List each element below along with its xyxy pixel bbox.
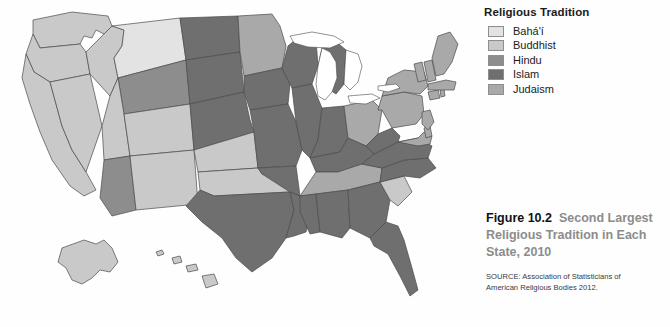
legend-swatch-icon xyxy=(488,84,504,95)
lake-huron xyxy=(344,50,362,90)
legend-item-0: Bahá'í xyxy=(484,24,664,38)
legend-item-4: Judaism xyxy=(484,82,664,96)
state-ia xyxy=(244,68,290,110)
state-me xyxy=(432,32,458,76)
legend-item-label: Buddhist xyxy=(513,40,556,51)
legend-swatch-icon xyxy=(488,55,504,66)
figure-number: Figure 10.2 xyxy=(486,211,559,225)
map-legend: Religious Tradition Bahá'íBuddhistHinduI… xyxy=(484,6,664,97)
legend-item-1: Buddhist xyxy=(484,39,664,53)
source-line-1: SOURCE: Association of Statisticians of xyxy=(486,272,666,283)
figure-caption-block: Figure 10.2Second Largest Religious Trad… xyxy=(486,210,666,293)
state-pa xyxy=(378,92,424,128)
source-line-2: American Religious Bodies 2012. xyxy=(486,283,666,294)
state-ak xyxy=(58,240,118,284)
state-ct xyxy=(428,90,440,100)
states-layer xyxy=(22,12,458,296)
state-nj xyxy=(422,110,434,130)
legend-item-label: Hindu xyxy=(513,55,542,66)
legend-item-3: Islam xyxy=(484,68,664,82)
lake-erie xyxy=(348,94,380,104)
legend-title: Religious Tradition xyxy=(484,6,664,18)
legend-items-list: Bahá'íBuddhistHinduIslamJudaism xyxy=(484,24,664,96)
state-al xyxy=(316,190,350,238)
state-az xyxy=(100,156,136,216)
legend-swatch-icon xyxy=(488,26,504,37)
state-mn xyxy=(238,14,286,76)
legend-swatch-icon xyxy=(488,40,504,51)
figure-caption: Figure 10.2Second Largest Religious Trad… xyxy=(486,210,666,261)
state-tx xyxy=(186,190,294,272)
figure-container: Religious Tradition Bahá'íBuddhistHinduI… xyxy=(0,0,670,327)
state-ma xyxy=(428,80,456,90)
us-choropleth-map xyxy=(0,0,470,327)
legend-item-2: Hindu xyxy=(484,53,664,67)
legend-item-label: Islam xyxy=(513,69,539,80)
state-nm xyxy=(130,150,198,210)
state-hi xyxy=(156,250,218,288)
state-fl xyxy=(370,222,418,296)
legend-item-label: Judaism xyxy=(513,84,554,95)
us-map-svg xyxy=(0,0,470,327)
legend-item-label: Bahá'í xyxy=(513,26,544,37)
figure-source: SOURCE: Association of Statisticians of … xyxy=(486,272,666,293)
legend-swatch-icon xyxy=(488,69,504,80)
state-mo xyxy=(250,104,302,168)
